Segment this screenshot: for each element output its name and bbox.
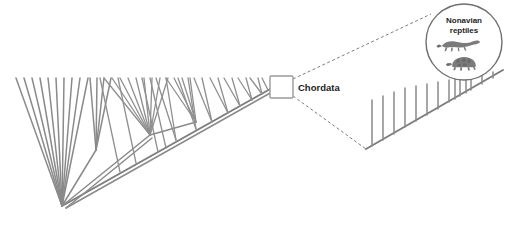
chordata-callout[interactable]: Chordata	[270, 76, 340, 98]
inset-label-line2: reptiles	[450, 26, 479, 35]
left-tip-bundle	[16, 78, 88, 206]
phylogenetic-tree-figure: Chordata Nonavian re	[0, 0, 513, 229]
main-fan-tree	[16, 78, 272, 208]
leader-line-lower	[293, 96, 366, 149]
chordata-label: Chordata	[298, 82, 340, 93]
tree-of-life-diagram: Chordata Nonavian re	[0, 0, 513, 229]
nonavian-reptiles-inset[interactable]: Nonavian reptiles	[426, 4, 502, 80]
magnifier-box[interactable]	[270, 76, 293, 98]
inset-label-line1: Nonavian	[446, 16, 482, 25]
leader-line-upper	[293, 14, 431, 79]
magnified-subtree	[366, 70, 503, 149]
